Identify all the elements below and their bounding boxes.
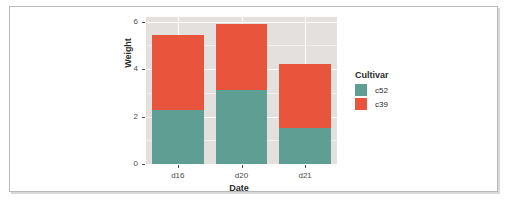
legend-entry-c39[interactable]: c39	[355, 98, 413, 110]
y-tick-mark-0	[142, 164, 145, 165]
plot-panel	[146, 17, 337, 164]
bar-segment-d21-c39[interactable]	[279, 64, 331, 128]
x-tick-mark-d21	[305, 165, 306, 168]
x-tick-mark-d20	[242, 165, 243, 168]
bar-segment-d21-c52[interactable]	[279, 128, 331, 164]
y-tick-mark-2	[142, 117, 145, 118]
bar-group-d21[interactable]	[279, 17, 331, 164]
x-tick-mark-d16	[178, 165, 179, 168]
y-tick-mark-4	[142, 69, 145, 70]
legend-key-c52	[355, 84, 367, 96]
legend-label-c39: c39	[375, 100, 388, 109]
bar-segment-d16-c39[interactable]	[152, 35, 204, 110]
y-tick-label-4: 4	[120, 64, 138, 73]
y-tick-mark-6	[142, 22, 145, 23]
legend-entry-c52[interactable]: c52	[355, 84, 413, 96]
legend: Cultivar c52c39	[355, 70, 413, 112]
y-tick-label-0: 0	[120, 159, 138, 168]
legend-key-c39	[355, 98, 367, 110]
bar-group-d20[interactable]	[216, 17, 268, 164]
bar-segment-d16-c52[interactable]	[152, 110, 204, 164]
x-tick-label-d16: d16	[158, 171, 198, 180]
legend-title: Cultivar	[355, 70, 413, 80]
y-axis-title: Weight	[121, 23, 135, 83]
x-tick-label-d21: d21	[285, 171, 325, 180]
bar-group-d16[interactable]	[152, 17, 204, 164]
y-tick-label-2: 2	[120, 112, 138, 121]
legend-label-c52: c52	[375, 86, 388, 95]
bar-segment-d20-c39[interactable]	[216, 24, 268, 90]
y-tick-label-6: 6	[120, 17, 138, 26]
bar-segment-d20-c52[interactable]	[216, 90, 268, 164]
plot-area: Weight Date 0 2 4 6 d16 d20 d21 Cultivar…	[0, 0, 513, 205]
chart-page: Weight Date 0 2 4 6 d16 d20 d21 Cultivar…	[0, 0, 513, 205]
x-tick-label-d20: d20	[222, 171, 262, 180]
legend-entries: c52c39	[355, 84, 413, 110]
x-axis-title: Date	[140, 183, 338, 193]
